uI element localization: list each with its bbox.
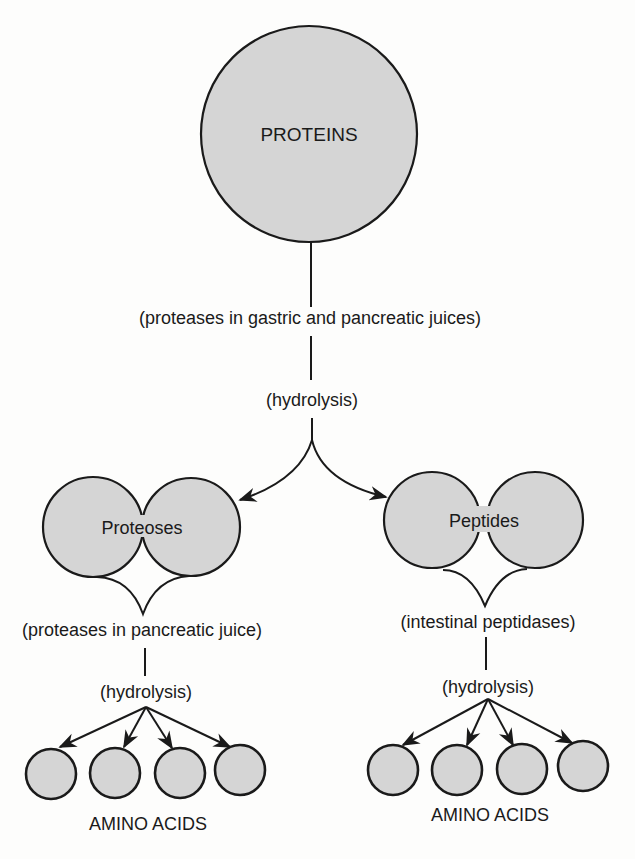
- proteoses-product-arrows: [60, 707, 230, 748]
- peptides-product-arrows: [403, 699, 572, 745]
- peptides-bracket: [443, 569, 527, 606]
- peptides-amino-acids: [368, 741, 608, 795]
- proteoses-amino-acids-label: AMINO ACIDS: [89, 814, 207, 834]
- peptides-label: Peptides: [449, 511, 519, 531]
- arrow-to-peptides: [312, 440, 386, 497]
- intestinal-peptidases-label: (intestinal peptidases): [400, 612, 575, 632]
- amino-acid-circle: [215, 745, 265, 795]
- proteoses-amino-acids: [26, 745, 265, 799]
- gastric-pancreatic-proteases-label: (proteases in gastric and pancreatic jui…: [139, 308, 481, 328]
- proteoses-node: Proteoses: [43, 477, 240, 614]
- peptides-amino-acids-label: AMINO ACIDS: [431, 805, 549, 825]
- amino-acid-circle: [90, 748, 140, 798]
- amino-acid-circle: [432, 745, 482, 795]
- arrow-to-proteoses: [240, 418, 312, 500]
- amino-acid-circle: [26, 749, 76, 799]
- proteoses-bracket: [97, 576, 189, 614]
- amino-acid-circle: [155, 748, 205, 798]
- proteins-label: PROTEINS: [260, 124, 357, 145]
- arrow-amino-acid-1: [60, 707, 146, 747]
- amino-acid-circle: [558, 741, 608, 791]
- peptides-hydrolysis-label: (hydrolysis): [442, 677, 534, 697]
- proteins-node: PROTEINS: [201, 26, 417, 242]
- split-arrows: [240, 418, 386, 500]
- pancreatic-proteases-label: (proteases in pancreatic juice): [22, 620, 262, 640]
- arrow-amino-acid-2: [467, 699, 488, 745]
- peptides-node: Peptides: [384, 472, 583, 606]
- protein-digestion-diagram: PROTEINS (proteases in gastric and pancr…: [0, 0, 635, 859]
- top-hydrolysis-label: (hydrolysis): [266, 390, 358, 410]
- proteoses-label: Proteoses: [101, 518, 182, 538]
- arrow-amino-acid-1: [403, 699, 488, 745]
- amino-acid-circle: [368, 745, 418, 795]
- amino-acid-circle: [497, 744, 547, 794]
- proteoses-hydrolysis-label: (hydrolysis): [100, 682, 192, 702]
